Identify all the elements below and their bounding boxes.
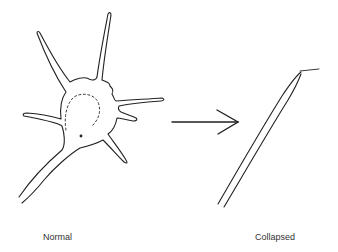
collapsed-cell-icon <box>218 69 319 207</box>
normal-cell-icon <box>19 13 164 203</box>
normal-label: Normal <box>43 232 72 242</box>
transition-arrow-icon <box>172 110 238 134</box>
collapsed-label: Collapsed <box>255 232 295 242</box>
diagram-canvas <box>0 0 338 252</box>
